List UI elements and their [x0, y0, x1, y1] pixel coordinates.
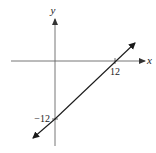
y-axis-label: y [50, 4, 56, 16]
x-intercept-label: 12 [110, 66, 120, 77]
y-intercept-label: −12 [34, 113, 50, 124]
line-graph: x y 12 −12 [0, 0, 156, 153]
x-axis-label: x [146, 54, 152, 66]
graph-line [55, 43, 135, 119]
